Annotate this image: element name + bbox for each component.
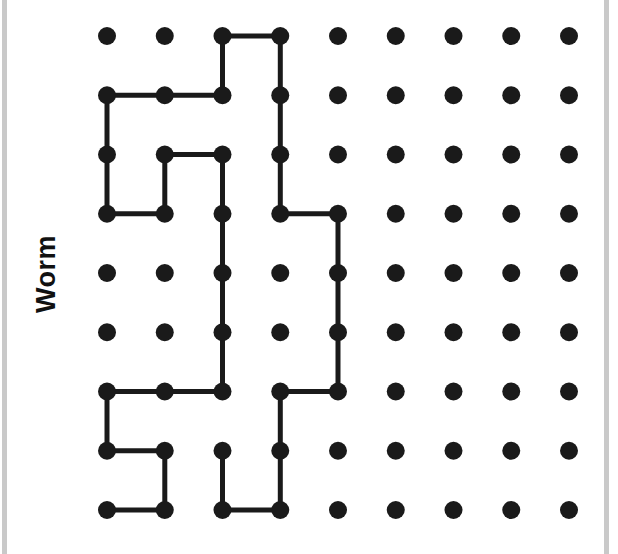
grid-dot	[502, 86, 520, 104]
grid-dot	[387, 264, 405, 282]
dot-grid	[0, 0, 618, 554]
grid-dot	[329, 27, 347, 45]
grid-dot	[445, 27, 463, 45]
grid-dot	[214, 146, 232, 164]
grid-dot	[445, 442, 463, 460]
grid-dot	[502, 27, 520, 45]
grid-dot	[214, 383, 232, 401]
grid-dot	[560, 146, 578, 164]
grid-dot	[329, 383, 347, 401]
grid-dot	[98, 501, 116, 519]
grid-dot	[214, 264, 232, 282]
grid-dot	[156, 146, 174, 164]
grid-dot	[271, 442, 289, 460]
grid-dot	[271, 501, 289, 519]
grid-dot	[560, 323, 578, 341]
grid-dot	[387, 442, 405, 460]
grid-dot	[214, 205, 232, 223]
grid-dot	[560, 501, 578, 519]
grid-dot	[387, 146, 405, 164]
grid-dot	[271, 146, 289, 164]
grid-dot	[214, 442, 232, 460]
grid-dot	[214, 501, 232, 519]
grid-dot	[156, 323, 174, 341]
grid-dot	[271, 205, 289, 223]
grid-dot	[502, 205, 520, 223]
grid-dot	[98, 383, 116, 401]
grid-dot	[560, 264, 578, 282]
grid-dot	[560, 27, 578, 45]
grid-dot	[329, 442, 347, 460]
grid-dot	[156, 205, 174, 223]
grid-dot	[156, 27, 174, 45]
grid-dot	[502, 383, 520, 401]
grid-dot	[156, 86, 174, 104]
grid-dot	[98, 146, 116, 164]
grid-dot	[502, 501, 520, 519]
grid-dot	[271, 264, 289, 282]
grid-dot	[387, 27, 405, 45]
grid-dot	[98, 323, 116, 341]
grid-dot	[560, 442, 578, 460]
grid-dot	[214, 27, 232, 45]
grid-dot	[445, 323, 463, 341]
grid-dot	[387, 205, 405, 223]
grid-dot	[502, 264, 520, 282]
grid-dot	[271, 323, 289, 341]
grid-dot	[445, 205, 463, 223]
grid-dot	[156, 264, 174, 282]
grid-dot	[329, 86, 347, 104]
grid-dot	[502, 442, 520, 460]
grid-dot	[445, 383, 463, 401]
grid-dot	[156, 442, 174, 460]
grid-dots	[98, 27, 578, 519]
grid-dot	[98, 442, 116, 460]
grid-dot	[214, 323, 232, 341]
grid-dot	[271, 27, 289, 45]
grid-dot	[329, 264, 347, 282]
worm-diagram: Worm	[0, 0, 618, 554]
grid-dot	[329, 205, 347, 223]
grid-dot	[98, 27, 116, 45]
grid-dot	[156, 383, 174, 401]
grid-dot	[445, 264, 463, 282]
grid-dot	[445, 146, 463, 164]
grid-dot	[502, 146, 520, 164]
grid-dot	[387, 501, 405, 519]
grid-dot	[98, 205, 116, 223]
grid-dot	[387, 86, 405, 104]
grid-dot	[560, 205, 578, 223]
grid-dot	[329, 323, 347, 341]
grid-dot	[560, 383, 578, 401]
grid-dot	[445, 86, 463, 104]
grid-dot	[156, 501, 174, 519]
grid-dot	[560, 86, 578, 104]
grid-dot	[387, 383, 405, 401]
grid-dot	[271, 383, 289, 401]
grid-dot	[98, 86, 116, 104]
grid-dot	[329, 146, 347, 164]
grid-dot	[387, 323, 405, 341]
grid-dot	[445, 501, 463, 519]
grid-dot	[271, 86, 289, 104]
grid-dot	[329, 501, 347, 519]
grid-dot	[502, 323, 520, 341]
grid-dot	[214, 86, 232, 104]
grid-dot	[98, 264, 116, 282]
